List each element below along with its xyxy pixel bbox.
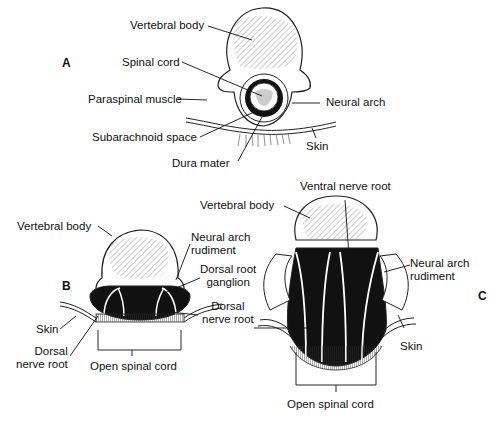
label-b-neural-arch-rudiment: Neural arch rudiment xyxy=(191,231,250,257)
label-a-paraspinal-muscle: Paraspinal muscle xyxy=(88,93,182,106)
label-c-ventral-nerve-root: Ventral nerve root xyxy=(300,180,391,193)
label-a-neural-arch: Neural arch xyxy=(326,96,385,109)
label-a-vertebral-body: Vertebral body xyxy=(130,19,204,32)
panel-c-drawing xyxy=(258,196,416,370)
label-a-skin: Skin xyxy=(306,140,328,153)
panel-label-c: C xyxy=(478,289,487,303)
label-c-neural-arch-rudiment: Neural arch rudiment xyxy=(410,257,469,283)
label-b-vertebral-body: Vertebral body xyxy=(17,220,91,233)
panel-a-drawing xyxy=(186,8,336,147)
label-b-dorsal-root-ganglion: Dorsal root ganglion xyxy=(200,263,256,289)
label-a-spinal-cord: Spinal cord xyxy=(122,56,180,69)
label-c-skin: Skin xyxy=(400,340,422,353)
label-b-open-spinal-cord: Open spinal cord xyxy=(90,360,177,373)
label-a-dura-mater: Dura mater xyxy=(172,157,230,170)
label-b-dorsal-nerve-root-right: Dorsal nerve root xyxy=(202,300,254,326)
panel-label-b: B xyxy=(62,279,71,293)
label-c-open-spinal-cord: Open spinal cord xyxy=(287,398,374,411)
label-a-subarachnoid-space: Subarachnoid space xyxy=(92,131,197,144)
label-b-dorsal-nerve-root-left: Dorsal nerve root xyxy=(16,345,68,371)
label-b-skin: Skin xyxy=(36,323,58,336)
label-c-vertebral-body: Vertebral body xyxy=(200,199,274,212)
panel-label-a: A xyxy=(62,56,71,70)
